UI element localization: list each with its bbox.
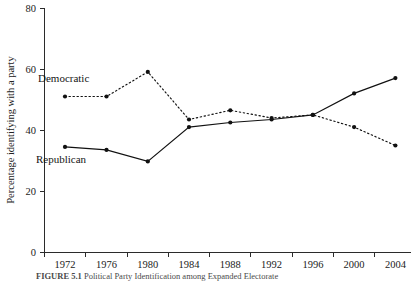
y-tick-label-80: 80 (26, 3, 37, 14)
republican-point-2004 (393, 76, 397, 80)
republican-point-1984 (187, 125, 191, 129)
x-tick-label-1972: 1972 (55, 259, 76, 270)
y-tick-label-20: 20 (26, 186, 37, 197)
democratic-point-1988 (228, 108, 232, 112)
x-tick-label-1992: 1992 (261, 259, 282, 270)
democratic-point-1984 (187, 117, 191, 121)
x-tick-label-1984: 1984 (179, 259, 201, 270)
republican-point-1996 (311, 113, 315, 117)
y-tick-label-40: 40 (26, 125, 37, 136)
series-label-democratic: Democratic (38, 72, 89, 84)
republican-point-1988 (228, 120, 232, 124)
republican-point-1976 (104, 148, 108, 152)
x-tick-label-1996: 1996 (302, 259, 323, 270)
republican-line (65, 78, 395, 161)
republican-point-1972 (63, 145, 67, 149)
series-republican (63, 76, 398, 163)
y-axis-title: Percentage identifying with a party (5, 55, 16, 203)
democratic-point-1972 (63, 94, 67, 98)
y-axis-ticks: 0 20 40 60 80 (26, 3, 45, 258)
x-tick-label-1976: 1976 (96, 259, 117, 270)
y-tick-label-60: 60 (26, 64, 37, 75)
series-democratic (63, 70, 398, 148)
figure-caption: FIGURE 5.1 Political Party Identificatio… (36, 271, 411, 281)
republican-point-2000 (352, 91, 356, 95)
democratic-point-1976 (104, 94, 108, 98)
republican-point-1992 (270, 117, 274, 121)
x-tick-label-1988: 1988 (220, 259, 241, 270)
series-label-republican: Republican (36, 153, 87, 165)
y-tick-label-0: 0 (31, 247, 36, 258)
x-axis-ticks: 1972 1976 1980 1984 1988 1992 1996 2000 … (45, 253, 407, 271)
democratic-point-2004 (393, 143, 397, 147)
figure-caption-text: Political Party Identification among Exp… (84, 271, 278, 281)
republican-point-1980 (146, 159, 150, 163)
x-tick-label-2000: 2000 (344, 259, 365, 270)
democratic-point-1980 (146, 70, 150, 74)
democratic-point-2000 (352, 125, 356, 129)
figure-caption-label: FIGURE 5.1 (36, 271, 82, 281)
x-tick-label-1980: 1980 (137, 259, 158, 270)
x-tick-label-2004: 2004 (385, 259, 407, 270)
